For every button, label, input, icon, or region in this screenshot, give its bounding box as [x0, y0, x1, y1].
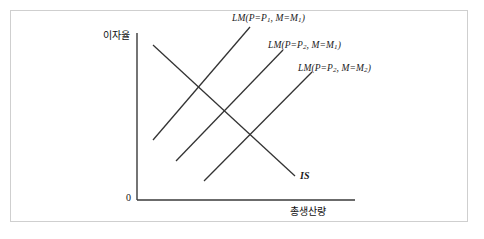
axes-group: [137, 33, 355, 200]
lm-curve-1-label: LM(P=P1, M=M1): [232, 13, 305, 24]
figure-root: LM(P=P1, M=M1) LM(P=P2, M=M1) LM(P=P2, M…: [0, 0, 484, 239]
y-axis-label: 이자율: [103, 27, 130, 42]
lm-curve-3-label: LM(P=P2, M=M2): [298, 63, 371, 74]
origin-label: 0: [126, 192, 131, 203]
lm-curve-2: [176, 50, 283, 161]
is-curve-label: IS: [300, 170, 310, 181]
lm-curve-1: [153, 27, 250, 140]
plot-canvas: [0, 0, 484, 239]
x-axis-label: 총생산량: [290, 203, 326, 218]
lm-curve-2-label: LM(P=P2, M=M1): [268, 40, 341, 51]
lm-curve-3: [204, 72, 312, 181]
